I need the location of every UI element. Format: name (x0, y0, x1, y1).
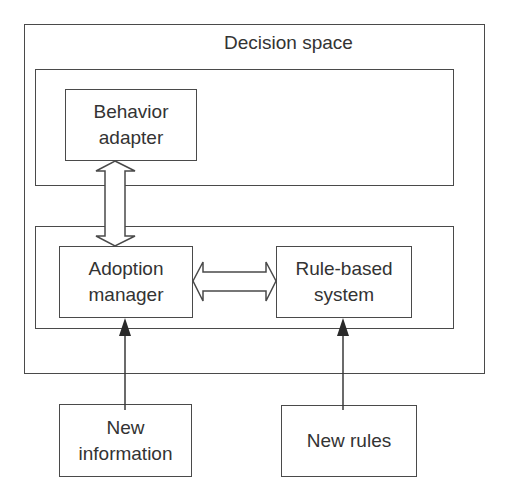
arrows-layer (0, 0, 506, 497)
new-information-arrowhead-icon (119, 318, 131, 336)
new-rules-arrowhead-icon (337, 318, 349, 336)
adoption-rule-double-arrow-icon (193, 262, 276, 301)
behavior-adoption-double-arrow-icon (96, 161, 135, 246)
